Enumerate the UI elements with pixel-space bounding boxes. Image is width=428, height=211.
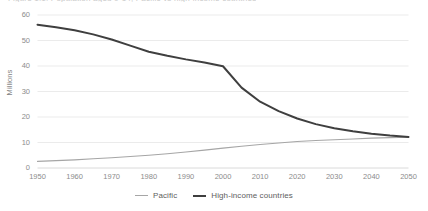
series-line — [38, 137, 409, 161]
gridlines — [38, 15, 409, 168]
series-line — [38, 25, 409, 137]
legend-line-icon — [193, 195, 206, 197]
legend-item-label: Pacific — [153, 191, 177, 200]
legend-item-label: High-income countries — [211, 191, 293, 200]
legend-item[interactable]: High-income countries — [193, 191, 293, 200]
plot-area — [0, 0, 428, 211]
legend-item[interactable]: Pacific — [135, 191, 177, 200]
chart-container: Figure 1.1: Population aged 0-14, Pacifi… — [0, 0, 428, 211]
legend-line-icon — [135, 195, 148, 196]
series-lines — [38, 25, 409, 162]
chart-legend: PacificHigh-income countries — [0, 191, 428, 200]
